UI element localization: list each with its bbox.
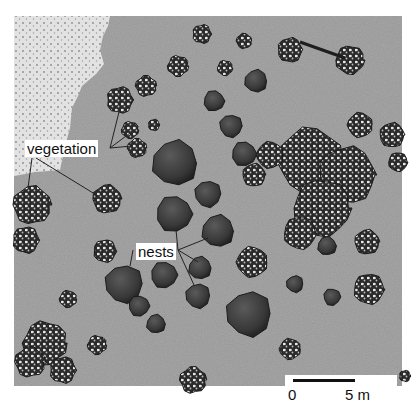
scale-end-label: 5 m: [345, 386, 370, 403]
vegetation-patch: [149, 119, 160, 130]
site-map: vegetation nests 0 5 m: [0, 0, 417, 414]
scale-start-label: 0: [288, 386, 296, 403]
vegetation-label: vegetation: [25, 140, 98, 157]
nests-label: nests: [136, 243, 176, 260]
scale-bar-line: [293, 379, 355, 382]
vegetation-patch: [400, 370, 411, 381]
vegetation-patch: [193, 25, 212, 44]
vegetation-patch: [389, 153, 408, 172]
scale-bar: 0 5 m: [285, 375, 397, 414]
map-canvas: [0, 0, 417, 414]
